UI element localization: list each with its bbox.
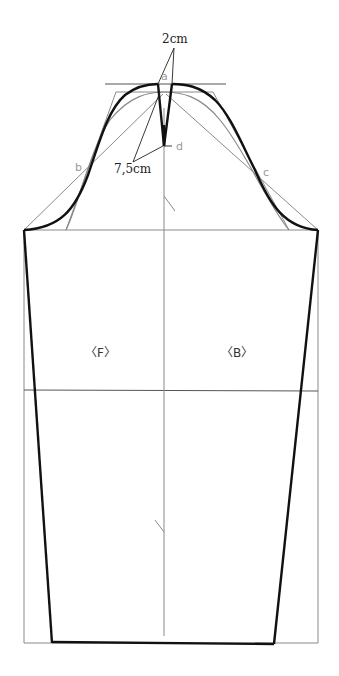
label-point-a: a bbox=[161, 70, 168, 83]
leader-7-5cm-bottom bbox=[133, 146, 163, 162]
elbow-line bbox=[24, 390, 318, 391]
cap-trapezoid bbox=[66, 92, 289, 230]
sleeve-pattern-diagram: 2cm a d 7,5cm b c 〈F〉 〈B〉 bbox=[0, 0, 339, 676]
sleeve-cap-front bbox=[24, 84, 158, 230]
label-2cm: 2cm bbox=[162, 32, 188, 46]
hem-line bbox=[52, 642, 274, 644]
label-point-c: c bbox=[263, 166, 269, 179]
leader-7-5cm-top bbox=[133, 92, 160, 162]
label-7-5cm: 7,5cm bbox=[114, 162, 152, 176]
sleeve-outline bbox=[24, 84, 318, 644]
front-side-seam bbox=[24, 230, 52, 643]
guide-lines bbox=[24, 84, 318, 643]
back-side-seam bbox=[274, 230, 318, 644]
label-front: 〈F〉 bbox=[85, 346, 116, 360]
label-back: 〈B〉 bbox=[221, 346, 253, 360]
notch-mark-lower bbox=[155, 520, 164, 532]
label-point-d: d bbox=[176, 140, 183, 153]
label-point-b: b bbox=[75, 161, 82, 174]
notch-mark-upper bbox=[164, 196, 175, 211]
diagonal-back bbox=[166, 94, 318, 230]
leader-2cm-right bbox=[172, 48, 174, 84]
original-cap-curve bbox=[66, 92, 289, 230]
dimension-leaders bbox=[133, 48, 174, 162]
